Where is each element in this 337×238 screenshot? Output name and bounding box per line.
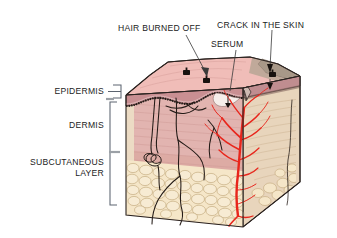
callout-label-serum: SERUM [211,39,243,49]
callout-label-hair-burned-off: HAIR BURNED OFF [118,23,201,33]
svg-text:LAYER: LAYER [75,168,104,178]
svg-text:SUBCUTANEOUS: SUBCUTANEOUS [30,157,104,167]
callout-label-crack-in-the-skin: CRACK IN THE SKIN [217,20,304,30]
skin-cross-section-diagram: HAIR BURNED OFF CRACK IN THE SKIN SERUM … [0,0,337,238]
layer-label-epidermis: EPIDERMIS [54,86,104,96]
layer-label-dermis: DERMIS [69,120,104,130]
